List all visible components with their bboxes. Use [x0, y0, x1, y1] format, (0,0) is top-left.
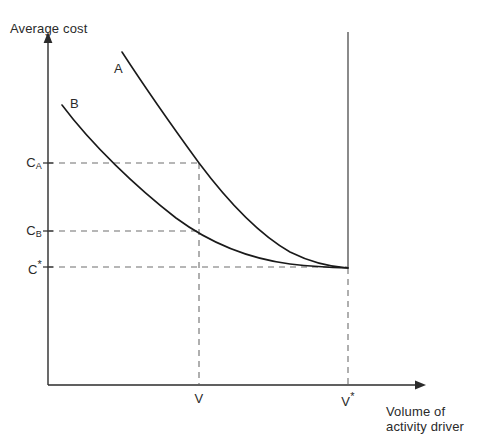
- curve-b-label: B: [70, 96, 79, 111]
- y-tick-label-cb: CB: [12, 223, 42, 238]
- guide-lines-group: [48, 163, 348, 384]
- y-tick-cb-base: C: [26, 223, 36, 238]
- average-cost-chart: Average cost Volume of activity driver A…: [0, 0, 477, 446]
- x-axis-arrowhead: [415, 381, 426, 390]
- curve-a-label: A: [114, 61, 123, 76]
- y-tick-ca-subscript: A: [36, 161, 42, 171]
- x-axis-title: Volume of activity driver: [386, 404, 464, 435]
- x-tick-vstar-asterisk: *: [350, 390, 354, 402]
- curve-b-path: [62, 105, 348, 268]
- x-axis-title-line1: Volume of: [386, 404, 445, 419]
- y-tick-label-cstar: C*: [12, 259, 42, 278]
- x-axis-title-line2: activity driver: [386, 419, 464, 434]
- x-tick-label-vstar: V*: [333, 391, 363, 410]
- curve-a-path: [122, 52, 348, 268]
- axes-group: [44, 32, 426, 389]
- chart-canvas: [0, 0, 477, 446]
- x-tick-label-v: V: [184, 391, 214, 406]
- y-tick-cb-subscript: B: [36, 229, 42, 239]
- x-tick-vstar-base: V: [341, 394, 350, 409]
- y-tick-ca-base: C: [26, 155, 36, 170]
- y-tick-cstar-base: C: [28, 262, 38, 277]
- y-tick-label-ca: CA: [12, 155, 42, 170]
- y-tick-cstar-asterisk: *: [38, 258, 42, 270]
- y-axis-title: Average cost: [10, 21, 87, 36]
